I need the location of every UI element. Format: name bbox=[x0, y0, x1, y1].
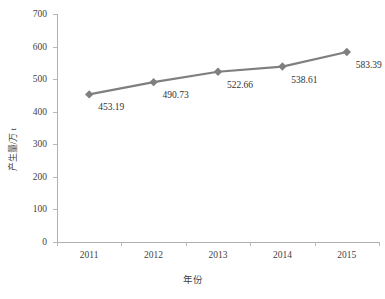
x-tick bbox=[379, 242, 380, 246]
y-tick-label: 200 bbox=[33, 172, 47, 182]
x-tick-label: 2014 bbox=[273, 250, 292, 260]
y-tick-label: 500 bbox=[33, 74, 47, 84]
x-axis-line bbox=[57, 242, 379, 243]
x-tick bbox=[186, 242, 187, 246]
x-tick-label: 2015 bbox=[337, 250, 356, 260]
x-tick-label: 2012 bbox=[144, 250, 163, 260]
data-point-marker bbox=[214, 68, 222, 76]
data-point-label: 583.39 bbox=[356, 60, 382, 70]
x-tick bbox=[315, 242, 316, 246]
y-tick-label: 600 bbox=[33, 42, 47, 52]
y-axis-title: 产生量/万 t bbox=[0, 0, 24, 299]
y-tick-label: 0 bbox=[42, 237, 47, 247]
data-point-marker bbox=[278, 62, 286, 70]
line-chart: 产生量/万 t 7006005004003002001000 201120122… bbox=[0, 0, 385, 299]
y-tick-label: 400 bbox=[33, 107, 47, 117]
series-line bbox=[57, 14, 379, 242]
data-point-marker bbox=[149, 78, 157, 86]
x-tick bbox=[121, 242, 122, 246]
plot-area: 7006005004003002001000 20112012201320142… bbox=[57, 14, 379, 242]
x-tick bbox=[250, 242, 251, 246]
x-tick bbox=[57, 242, 58, 246]
data-point-marker bbox=[343, 48, 351, 56]
data-point-label: 522.66 bbox=[227, 80, 253, 90]
x-tick-label: 2013 bbox=[209, 250, 228, 260]
y-tick-label: 300 bbox=[33, 139, 47, 149]
x-tick-label: 2011 bbox=[80, 250, 99, 260]
y-tick-label: 100 bbox=[33, 204, 47, 214]
x-axis-title: 年份 bbox=[0, 272, 385, 286]
data-point-label: 453.19 bbox=[98, 102, 124, 112]
data-point-label: 490.73 bbox=[163, 90, 189, 100]
data-point-marker bbox=[85, 90, 93, 98]
data-point-label: 538.61 bbox=[291, 75, 317, 85]
y-tick-label: 700 bbox=[33, 9, 47, 19]
